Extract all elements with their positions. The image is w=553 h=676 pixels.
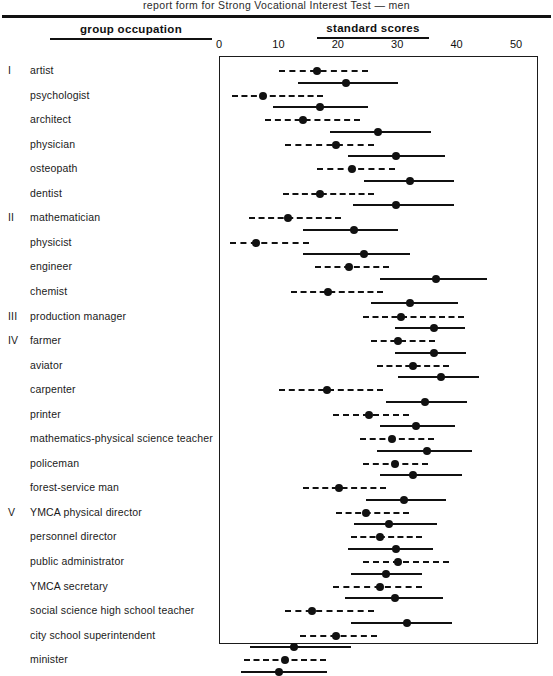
mean-marker-dashed — [313, 67, 321, 75]
range-bar-dashed — [283, 193, 374, 195]
range-bar-solid — [351, 622, 452, 624]
range-bar-solid — [250, 646, 351, 648]
mean-marker-solid — [406, 177, 414, 185]
mean-marker-dashed — [308, 607, 316, 615]
occupation-label-column: artistIpsychologistarchitectphysicianost… — [0, 56, 219, 644]
range-bar-solid — [353, 204, 454, 206]
mean-marker-solid — [385, 520, 393, 528]
group-numeral: I — [8, 64, 11, 76]
occupation-label: physicist — [30, 236, 72, 248]
mean-marker-dashed — [332, 141, 340, 149]
mean-marker-dashed — [362, 509, 370, 517]
x-axis: 01020304050 — [0, 38, 553, 54]
range-bar-dashed — [363, 561, 449, 563]
mean-marker-solid — [432, 275, 440, 283]
column-header-standard-scores: standard scores — [308, 22, 438, 34]
mean-marker-dashed — [299, 116, 307, 124]
occupation-label: carpenter — [30, 383, 76, 395]
mean-marker-dashed — [394, 337, 402, 345]
occupation-label: artist — [30, 64, 54, 76]
group-numeral: III — [8, 310, 17, 322]
occupation-label: architect — [30, 113, 71, 125]
mean-marker-solid — [350, 226, 358, 234]
plot-area — [219, 56, 538, 644]
occupation-label: farmer — [30, 334, 61, 346]
occupation-label: public administrator — [30, 555, 124, 567]
mean-marker-dashed — [323, 386, 331, 394]
mean-marker-dashed — [391, 460, 399, 468]
range-bar-dashed — [351, 536, 422, 538]
occupation-label: YMCA secretary — [30, 580, 108, 592]
mean-marker-solid — [430, 349, 438, 357]
occupation-label: personnel director — [30, 530, 117, 542]
range-bar-dashed — [363, 316, 464, 318]
mean-marker-solid — [403, 619, 411, 627]
mean-marker-dashed — [332, 632, 340, 640]
range-bar-solid — [354, 523, 438, 525]
mean-marker-solid — [437, 373, 445, 381]
mean-marker-dashed — [394, 558, 402, 566]
mean-marker-solid — [392, 545, 400, 553]
occupation-label: psychologist — [30, 89, 90, 101]
occupation-label: osteopath — [30, 162, 77, 174]
mean-marker-solid — [275, 668, 283, 676]
occupation-label: mathematics-physical science teacher — [30, 432, 213, 444]
mean-marker-solid — [392, 152, 400, 160]
x-axis-tick-40: 40 — [450, 38, 462, 50]
range-bar-dashed — [279, 389, 383, 391]
range-bar-dashed — [317, 168, 395, 170]
x-axis-tick-30: 30 — [391, 38, 403, 50]
mean-marker-solid — [374, 128, 382, 136]
occupation-label: minister — [30, 653, 68, 665]
occupation-label: mathematician — [30, 211, 100, 223]
mean-marker-solid — [342, 79, 350, 87]
occupation-label: social science high school teacher — [30, 604, 194, 616]
mean-marker-solid — [421, 398, 429, 406]
mean-marker-dashed — [259, 92, 267, 100]
mean-marker-dashed — [316, 190, 324, 198]
occupation-label: policeman — [30, 457, 79, 469]
mean-marker-dashed — [281, 656, 289, 664]
range-bar-solid — [348, 548, 433, 550]
mean-marker-solid — [392, 201, 400, 209]
mean-marker-solid — [360, 250, 368, 258]
mean-marker-solid — [316, 103, 324, 111]
occupation-label: forest-service man — [30, 481, 119, 493]
mean-marker-solid — [290, 643, 298, 651]
group-numeral: II — [8, 211, 14, 223]
x-axis-tick-0: 0 — [216, 38, 222, 50]
mean-marker-dashed — [284, 214, 292, 222]
range-bar-dashed — [371, 340, 435, 342]
range-bar-dashed — [279, 70, 368, 72]
mean-marker-dashed — [348, 165, 356, 173]
mean-marker-dashed — [388, 435, 396, 443]
mean-marker-dashed — [345, 263, 353, 271]
range-bar-solid — [371, 302, 457, 304]
header-rule — [2, 15, 551, 18]
occupation-label: aviator — [30, 359, 63, 371]
mean-marker-solid — [400, 496, 408, 504]
mean-marker-solid — [382, 570, 390, 578]
mean-marker-dashed — [376, 533, 384, 541]
occupation-label: production manager — [30, 310, 126, 322]
range-bar-dashed — [232, 95, 322, 97]
mean-marker-dashed — [324, 288, 332, 296]
range-bar-dashed — [249, 217, 341, 219]
occupation-label: city school superintendent — [30, 629, 155, 641]
mean-marker-dashed — [252, 239, 260, 247]
range-bar-dashed — [336, 512, 409, 514]
range-bar-solid — [380, 474, 462, 476]
range-bar-dashed — [285, 144, 374, 146]
group-numeral: IV — [8, 334, 18, 346]
range-bar-dashed — [360, 438, 434, 440]
range-bar-dashed — [285, 610, 374, 612]
range-bar-dashed — [291, 291, 383, 293]
occupation-label: engineer — [30, 260, 72, 272]
mean-marker-solid — [412, 422, 420, 430]
x-axis-tick-50: 50 — [510, 38, 522, 50]
mean-marker-dashed — [409, 362, 417, 370]
occupation-label: printer — [30, 408, 61, 420]
mean-marker-dashed — [397, 313, 405, 321]
range-bar-solid — [241, 671, 327, 673]
